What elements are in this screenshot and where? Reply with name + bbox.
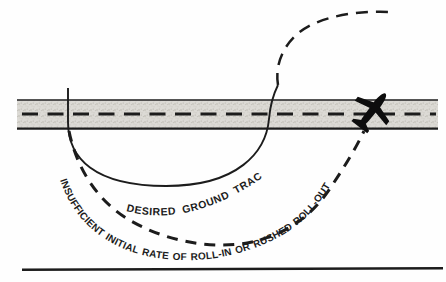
planned-continuation-curve: [277, 12, 391, 85]
label-error-track: INSUFFICIENT INITIAL RATE OF ROLL-IN OR …: [58, 177, 332, 262]
diagram-canvas: DESIRED GROUND TRACK INSUFFICIENT INITIA…: [0, 0, 446, 282]
bottom-rule: [22, 268, 443, 269]
ground-track-figure: DESIRED GROUND TRACK INSUFFICIENT INITIA…: [0, 0, 446, 282]
